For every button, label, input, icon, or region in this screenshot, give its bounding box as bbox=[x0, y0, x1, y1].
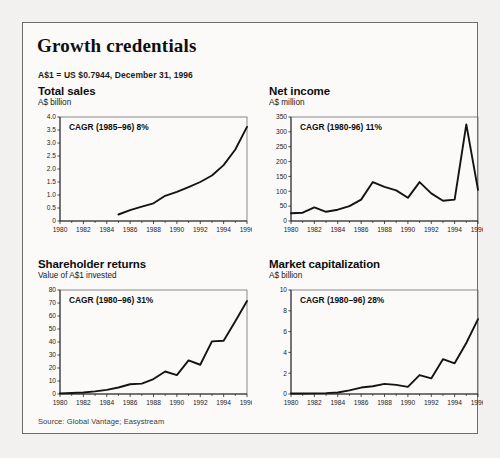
chart-axis-unit-label: A$ billion bbox=[38, 98, 252, 108]
x-tick-label: 1996 bbox=[240, 226, 252, 233]
chart-svg: 0501001502002503003501980198219841986198… bbox=[269, 111, 483, 235]
exchange-rate-note: A$1 = US $0.7944, December 31, 1996 bbox=[38, 70, 193, 80]
y-tick-label: 250 bbox=[276, 143, 287, 150]
x-tick-label: 1986 bbox=[354, 226, 369, 233]
x-tick-label: 1990 bbox=[401, 226, 416, 233]
x-tick-label: 1984 bbox=[330, 226, 345, 233]
chart-panel-shareholder-returns: Shareholder returns Value of A$1 investe… bbox=[38, 258, 252, 408]
y-tick-label: 0.5 bbox=[47, 204, 56, 211]
cagr-annotation: CAGR (1980–96) 28% bbox=[300, 295, 385, 305]
x-tick-label: 1980 bbox=[284, 226, 299, 233]
x-tick-label: 1984 bbox=[330, 399, 345, 406]
y-tick-label: 0 bbox=[52, 217, 56, 224]
y-tick-label: 3.0 bbox=[47, 139, 56, 146]
x-tick-label: 1992 bbox=[424, 226, 439, 233]
plot-area: 00.51.01.52.02.53.03.54.0198019821984198… bbox=[38, 111, 252, 235]
chart-panel-net-income: Net income A$ million 050100150200250300… bbox=[269, 85, 483, 235]
chart-panel-market-capitalization: Market capitalization A$ billion 0246810… bbox=[269, 258, 483, 408]
y-tick-label: 4 bbox=[283, 349, 287, 356]
chart-svg: 0102030405060708019801982198419861988199… bbox=[38, 284, 252, 408]
chart-axis-unit-label: A$ billion bbox=[269, 271, 483, 281]
x-tick-label: 1984 bbox=[99, 399, 114, 406]
x-tick-label: 1980 bbox=[53, 399, 68, 406]
y-tick-label: 60 bbox=[49, 312, 57, 319]
y-tick-label: 0 bbox=[283, 217, 287, 224]
x-tick-label: 1988 bbox=[377, 226, 392, 233]
x-tick-label: 1996 bbox=[471, 226, 483, 233]
chart-svg: 0246810198019821984198619881990199219941… bbox=[269, 284, 483, 408]
x-tick-label: 1990 bbox=[170, 399, 185, 406]
x-tick-label: 1982 bbox=[76, 399, 91, 406]
x-tick-label: 1994 bbox=[216, 399, 231, 406]
x-tick-label: 1986 bbox=[123, 399, 138, 406]
y-tick-label: 150 bbox=[276, 173, 287, 180]
y-tick-label: 1.5 bbox=[47, 178, 56, 185]
y-tick-label: 50 bbox=[49, 325, 57, 332]
y-tick-label: 80 bbox=[49, 286, 57, 293]
data-series-line bbox=[291, 124, 478, 213]
y-tick-label: 3.5 bbox=[47, 126, 56, 133]
cagr-annotation: CAGR (1980-96) 11% bbox=[300, 122, 382, 132]
y-tick-label: 10 bbox=[49, 377, 57, 384]
x-tick-label: 1986 bbox=[123, 226, 138, 233]
data-series-line bbox=[118, 127, 247, 215]
y-tick-label: 2 bbox=[283, 370, 287, 377]
y-tick-label: 2.0 bbox=[47, 165, 56, 172]
x-tick-label: 1996 bbox=[240, 399, 252, 406]
chart-panel-total-sales: Total sales A$ billion 00.51.01.52.02.53… bbox=[38, 85, 252, 235]
y-tick-label: 200 bbox=[276, 158, 287, 165]
x-tick-label: 1994 bbox=[216, 226, 231, 233]
x-tick-label: 1992 bbox=[424, 399, 439, 406]
plot-area: 0246810198019821984198619881990199219941… bbox=[269, 284, 483, 408]
y-tick-label: 0 bbox=[283, 390, 287, 397]
chart-title: Total sales bbox=[38, 85, 252, 97]
y-tick-label: 1.0 bbox=[47, 191, 56, 198]
y-tick-label: 40 bbox=[49, 338, 57, 345]
source-note: Source: Global Vantage; Easystream bbox=[38, 417, 164, 426]
plot-area: 0501001502002503003501980198219841986198… bbox=[269, 111, 483, 235]
plot-area: 0102030405060708019801982198419861988199… bbox=[38, 284, 252, 408]
x-tick-label: 1996 bbox=[471, 399, 483, 406]
x-tick-label: 1988 bbox=[377, 399, 392, 406]
y-tick-label: 0 bbox=[52, 390, 56, 397]
y-tick-label: 350 bbox=[276, 113, 287, 120]
y-tick-label: 2.5 bbox=[47, 152, 56, 159]
page-title: Growth credentials bbox=[37, 35, 197, 57]
y-tick-label: 10 bbox=[280, 286, 288, 293]
x-tick-label: 1990 bbox=[401, 399, 416, 406]
x-tick-label: 1980 bbox=[284, 399, 299, 406]
y-tick-label: 6 bbox=[283, 328, 287, 335]
y-tick-label: 50 bbox=[280, 202, 288, 209]
y-tick-label: 300 bbox=[276, 128, 287, 135]
x-tick-label: 1990 bbox=[170, 226, 185, 233]
x-tick-label: 1992 bbox=[193, 226, 208, 233]
y-tick-label: 30 bbox=[49, 351, 57, 358]
x-tick-label: 1982 bbox=[307, 226, 322, 233]
x-tick-label: 1988 bbox=[146, 226, 161, 233]
x-tick-label: 1980 bbox=[53, 226, 68, 233]
y-tick-label: 100 bbox=[276, 188, 287, 195]
chart-axis-unit-label: Value of A$1 invested bbox=[38, 271, 252, 281]
chart-svg: 00.51.01.52.02.53.03.54.0198019821984198… bbox=[38, 111, 252, 235]
x-tick-label: 1986 bbox=[354, 399, 369, 406]
chart-axis-unit-label: A$ million bbox=[269, 98, 483, 108]
y-tick-label: 4.0 bbox=[47, 113, 56, 120]
data-series-line bbox=[60, 301, 247, 393]
x-tick-label: 1982 bbox=[76, 226, 91, 233]
x-tick-label: 1988 bbox=[146, 399, 161, 406]
data-series-line bbox=[291, 319, 478, 393]
chart-title: Shareholder returns bbox=[38, 258, 252, 270]
cagr-annotation: CAGR (1980–96) 31% bbox=[69, 295, 154, 305]
cagr-annotation: CAGR (1985–96) 8% bbox=[69, 122, 149, 132]
chart-title: Market capitalization bbox=[269, 258, 483, 270]
x-tick-label: 1984 bbox=[99, 226, 114, 233]
x-tick-label: 1992 bbox=[193, 399, 208, 406]
chart-title: Net income bbox=[269, 85, 483, 97]
x-tick-label: 1994 bbox=[447, 399, 462, 406]
x-tick-label: 1994 bbox=[447, 226, 462, 233]
x-tick-label: 1982 bbox=[307, 399, 322, 406]
exhibit-panel: Growth credentials A$1 = US $0.7944, Dec… bbox=[22, 22, 478, 434]
y-tick-label: 8 bbox=[283, 307, 287, 314]
y-tick-label: 20 bbox=[49, 364, 57, 371]
y-tick-label: 70 bbox=[49, 299, 57, 306]
